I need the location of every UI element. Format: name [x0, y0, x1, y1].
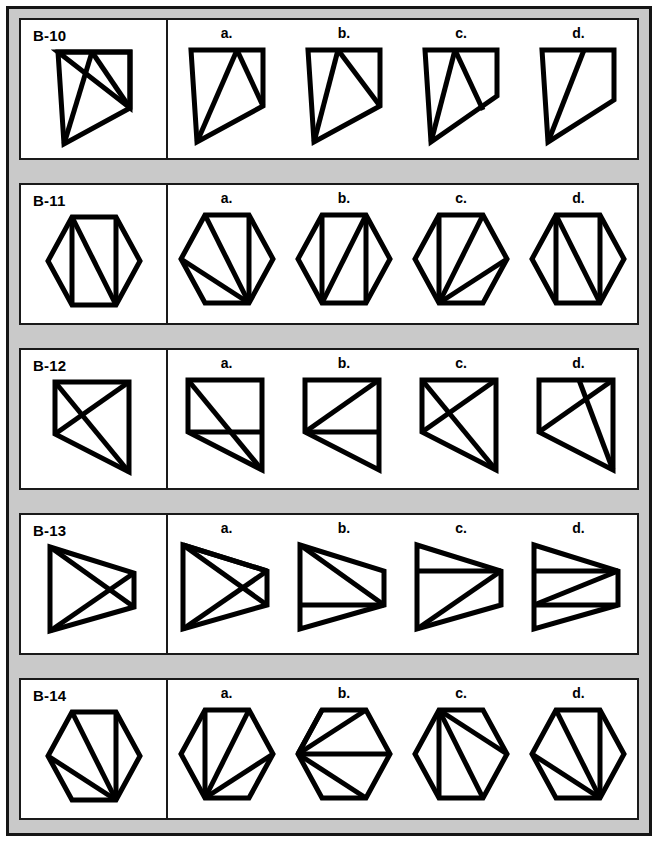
option-label-b: b.: [285, 25, 402, 41]
option-label-d: d.: [520, 355, 637, 371]
problem-row-b13: B-13 a.: [19, 513, 639, 655]
stem-cell-b11: [21, 185, 166, 323]
option-figure-b13-b: [292, 539, 396, 635]
option-figure-b12-c: [414, 374, 508, 476]
option-label-c: c.: [403, 520, 520, 536]
option-label-d: d.: [520, 190, 637, 206]
option-b12-b[interactable]: b.: [285, 350, 402, 488]
option-figure-b11-a: [175, 209, 279, 309]
option-b14-b[interactable]: b.: [285, 680, 402, 818]
option-b10-d[interactable]: d.: [520, 20, 637, 158]
options-b14: a. b.: [168, 680, 637, 818]
option-label-b: b.: [285, 355, 402, 371]
option-b10-c[interactable]: c.: [403, 20, 520, 158]
option-label-d: d.: [520, 520, 637, 536]
option-label-d: d.: [520, 685, 637, 701]
option-label-b: b.: [285, 190, 402, 206]
stem-cell-b13: [21, 515, 166, 653]
option-figure-b10-a: [177, 44, 277, 148]
option-b12-a[interactable]: a.: [168, 350, 285, 488]
option-label-c: c.: [403, 355, 520, 371]
row-list: B-10 a.: [19, 18, 639, 824]
option-figure-b11-d: [526, 209, 630, 309]
problem-row-b12: B-12 a.: [19, 348, 639, 490]
option-figure-b14-b: [292, 704, 396, 804]
option-b10-b[interactable]: b.: [285, 20, 402, 158]
option-b13-c[interactable]: c.: [403, 515, 520, 653]
option-b14-d[interactable]: d.: [520, 680, 637, 818]
option-figure-b11-c: [409, 209, 513, 309]
option-label-a: a.: [168, 25, 285, 41]
stem-figure-b14: [42, 706, 146, 806]
option-b14-a[interactable]: a.: [168, 680, 285, 818]
stem-cell-b12: [21, 350, 166, 488]
option-figure-b14-d: [526, 704, 630, 804]
option-label-a: a.: [168, 685, 285, 701]
option-b11-c[interactable]: c.: [403, 185, 520, 323]
worksheet-page: B-10 a.: [6, 6, 652, 836]
option-b13-a[interactable]: a.: [168, 515, 285, 653]
option-figure-b11-b: [292, 209, 396, 309]
stem-cell-b10: [21, 20, 166, 158]
stem-cell-b14: [21, 680, 166, 818]
option-b11-a[interactable]: a.: [168, 185, 285, 323]
option-label-c: c.: [403, 685, 520, 701]
option-figure-b14-c: [409, 704, 513, 804]
option-label-d: d.: [520, 25, 637, 41]
option-figure-b12-b: [297, 374, 391, 476]
problem-row-b11: B-11 a.: [19, 183, 639, 325]
option-label-c: c.: [403, 25, 520, 41]
option-figure-b10-c: [411, 44, 511, 148]
option-label-b: b.: [285, 685, 402, 701]
stem-figure-b12: [47, 376, 141, 478]
option-b11-b[interactable]: b.: [285, 185, 402, 323]
stem-figure-b13: [42, 541, 146, 637]
option-label-a: a.: [168, 520, 285, 536]
option-b12-d[interactable]: d.: [520, 350, 637, 488]
option-b12-c[interactable]: c.: [403, 350, 520, 488]
option-figure-b14-a: [175, 704, 279, 804]
option-b14-c[interactable]: c.: [403, 680, 520, 818]
option-figure-b12-d: [531, 374, 625, 476]
options-b12: a. b.: [168, 350, 637, 488]
options-b11: a. b.: [168, 185, 637, 323]
option-b13-d[interactable]: d.: [520, 515, 637, 653]
option-figure-b13-c: [409, 539, 513, 635]
option-figure-b10-d: [528, 44, 628, 148]
option-figure-b10-b: [294, 44, 394, 148]
option-figure-b12-a: [180, 374, 274, 476]
option-b11-d[interactable]: d.: [520, 185, 637, 323]
option-figure-b13-d: [526, 539, 630, 635]
stem-figure-b11: [42, 211, 146, 311]
option-label-a: a.: [168, 355, 285, 371]
option-label-a: a.: [168, 190, 285, 206]
stem-figure-b10: [44, 46, 144, 150]
option-label-c: c.: [403, 190, 520, 206]
option-b10-a[interactable]: a.: [168, 20, 285, 158]
option-figure-b13-a: [175, 539, 279, 635]
problem-row-b10: B-10 a.: [19, 18, 639, 160]
option-b13-b[interactable]: b.: [285, 515, 402, 653]
problem-row-b14: B-14 a.: [19, 678, 639, 820]
options-b10: a. b.: [168, 20, 637, 158]
options-b13: a. b.: [168, 515, 637, 653]
option-label-b: b.: [285, 520, 402, 536]
